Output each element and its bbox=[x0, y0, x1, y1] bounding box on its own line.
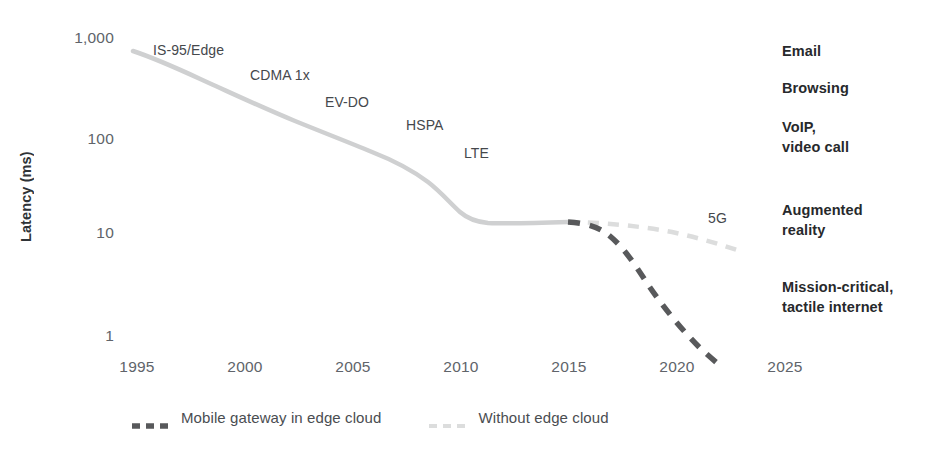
legend-label-without-edge-cloud: Without edge cloud bbox=[478, 410, 608, 425]
series-line-historical bbox=[133, 51, 568, 223]
usecase-augmented-reality: Augmented reality bbox=[782, 200, 863, 240]
legend-item-without-edge-cloud[interactable]: Without edge cloud bbox=[429, 410, 608, 425]
legend-label-edge-cloud: Mobile gateway in edge cloud bbox=[181, 410, 381, 425]
annotation-cdma-1x: CDMA 1x bbox=[250, 68, 310, 82]
annotation-lte: LTE bbox=[464, 146, 489, 160]
usecase-mission-critical: Mission-critical, tactile internet bbox=[782, 277, 893, 317]
usecase-email: Email bbox=[782, 41, 821, 61]
annotation-5g: 5G bbox=[708, 211, 727, 225]
latency-trend-chart: Latency (ms) 1,000 100 10 1 1995 2000 20… bbox=[0, 0, 944, 463]
usecase-voip-video-call: VoIP, video call bbox=[782, 117, 849, 157]
legend-swatch-without-edge-cloud-icon bbox=[429, 415, 465, 420]
legend-item-edge-cloud[interactable]: Mobile gateway in edge cloud bbox=[132, 410, 381, 425]
series-line-edge-cloud bbox=[568, 222, 723, 368]
usecase-browsing: Browsing bbox=[782, 78, 849, 98]
annotation-is95-edge: IS-95/Edge bbox=[153, 43, 224, 57]
annotation-hspa: HSPA bbox=[406, 118, 444, 132]
chart-legend: Mobile gateway in edge cloud Without edg… bbox=[132, 410, 609, 425]
annotation-ev-do: EV-DO bbox=[325, 95, 369, 109]
legend-swatch-edge-cloud-icon bbox=[132, 415, 168, 420]
